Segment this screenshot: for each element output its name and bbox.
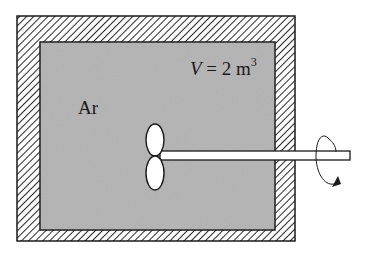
volume-label: V = 2 m3: [190, 57, 257, 80]
rotation-arrow-icon: [316, 136, 341, 187]
rotating-shaft: [160, 151, 350, 160]
gas-label: Ar: [78, 97, 98, 119]
paddle-blade-top: [146, 124, 164, 156]
volume-variable: V: [190, 58, 202, 79]
paddle-blade-bottom: [146, 156, 164, 190]
tank-diagram: [0, 0, 373, 265]
volume-exponent: 3: [251, 55, 257, 69]
volume-value: = 2 m: [202, 58, 251, 79]
